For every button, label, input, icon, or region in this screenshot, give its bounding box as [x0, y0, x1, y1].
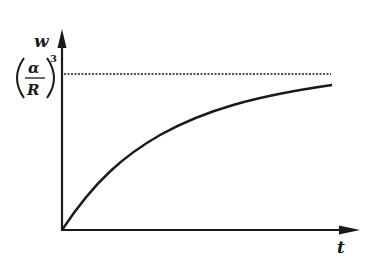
right-paren	[47, 58, 54, 98]
chart-canvas: w t α R 3	[0, 0, 382, 276]
y-axis-arrow-icon	[58, 29, 67, 48]
x-axis-arrow-icon	[339, 226, 360, 235]
R-symbol: R	[26, 81, 39, 99]
asymptote-label: α R 3	[17, 53, 57, 99]
x-axis-label: t	[337, 237, 345, 257]
y-axis-label: w	[34, 31, 50, 51]
left-paren	[17, 58, 24, 98]
exponent: 3	[50, 53, 57, 64]
alpha-symbol: α	[28, 59, 40, 77]
data-curve	[62, 85, 332, 230]
